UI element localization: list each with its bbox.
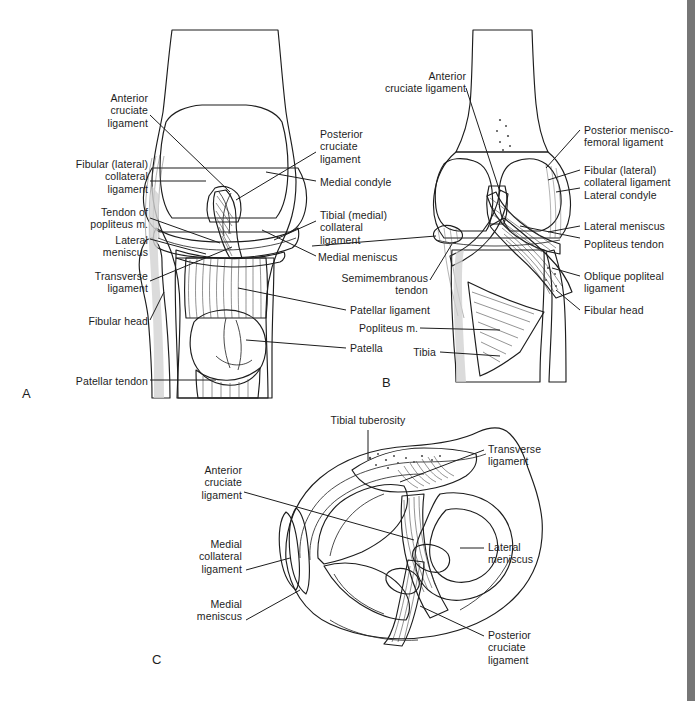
label-b-lateral-condyle: Lateral condyle — [584, 189, 695, 201]
label-a-fibular-collateral-ligament: Fibular (lateral) collateral ligament — [0, 158, 148, 195]
label-b-popliteus-muscle: Popliteus m. — [318, 322, 418, 334]
label-a-patellar-ligament: Patellar ligament — [350, 304, 490, 316]
label-b-posterior-meniscofemoral-ligament: Posterior menisco- femoral ligament — [584, 124, 695, 149]
label-c-posterior-cruciate-ligament: Posterior cruciate ligament — [488, 629, 608, 666]
label-b-semimembranous-tendon: Semimembranous tendon — [310, 272, 428, 297]
label-a-anterior-cruciate-ligament: Anterior cruciate ligament — [0, 92, 148, 129]
label-a-medial-meniscus: Medial meniscus — [318, 251, 458, 263]
label-a-fibular-head: Fibular head — [0, 315, 148, 327]
right-edge-strip — [687, 0, 695, 701]
label-c-tibial-tuberosity: Tibial tuberosity — [300, 414, 436, 426]
anatomy-figure: Anterior cruciate ligament Fibular (late… — [0, 0, 695, 701]
panel-letter-c: C — [152, 652, 161, 667]
label-c-medial-collateral-ligament: Medial collateral ligament — [130, 538, 242, 575]
label-b-tibia: Tibia — [370, 346, 436, 358]
label-a-lateral-meniscus: Lateral meniscus — [0, 234, 148, 259]
label-b-popliteus-tendon: Popliteus tendon — [584, 238, 695, 250]
label-a-medial-condyle: Medial condyle — [320, 176, 460, 188]
label-b-oblique-popliteal-ligament: Oblique popliteal ligament — [584, 270, 695, 295]
label-c-transverse-ligament: Transverse ligament — [488, 443, 608, 468]
panel-letter-a: A — [22, 386, 31, 401]
label-b-fibular-collateral-ligament: Fibular (lateral) collateral ligament — [584, 164, 695, 189]
label-b-fibular-head: Fibular head — [584, 304, 695, 316]
label-b-anterior-cruciate-ligament: Anterior cruciate ligament — [340, 70, 466, 95]
label-c-lateral-meniscus: Lateral meniscus — [488, 541, 608, 566]
label-c-anterior-cruciate-ligament: Anterior cruciate ligament — [130, 464, 242, 501]
label-a-transverse-ligament: Transverse ligament — [0, 270, 148, 295]
panel-letter-b: B — [382, 375, 391, 390]
label-a-tibial-collateral-ligament: Tibial (medial) collateral ligament — [320, 209, 460, 246]
label-a-tendon-of-popliteus: Tendon of popliteus m. — [0, 206, 148, 231]
label-a-posterior-cruciate-ligament: Posterior cruciate ligament — [320, 128, 440, 165]
label-c-medial-meniscus: Medial meniscus — [130, 598, 242, 623]
label-b-lateral-meniscus: Lateral meniscus — [584, 220, 695, 232]
